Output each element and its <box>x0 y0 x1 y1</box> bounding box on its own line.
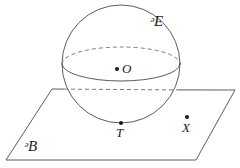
equator-back-arc <box>62 47 180 64</box>
geometry-figure: ᵊE O T X ᵊB <box>0 0 240 168</box>
center-point-dot <box>115 67 119 71</box>
plane-label: ᵊB <box>24 139 37 154</box>
plane-point-label: X <box>182 121 190 134</box>
tangent-point-label: T <box>116 126 123 139</box>
sphere-label: ᵊE <box>150 14 163 29</box>
equator-front-arc <box>62 64 180 81</box>
plane-point-dot <box>185 115 189 119</box>
center-label: O <box>122 62 131 75</box>
plane-top-edge-hidden <box>64 89 178 90</box>
